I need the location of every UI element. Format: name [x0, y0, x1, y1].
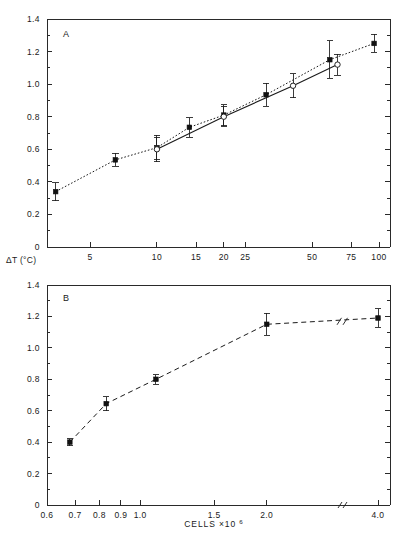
panel-b-datapoint: [376, 316, 381, 321]
panel-a-datapoint: [372, 41, 377, 46]
panel-b-series-break-icon: [337, 318, 348, 325]
panel-b-yticklabel: 0.4: [27, 437, 40, 447]
panel-a-datapoint: [335, 62, 340, 67]
panel-b-xticklabel: 0.8: [93, 510, 106, 520]
panel-b-xticklabel: 4.0: [371, 510, 384, 520]
panel-a-datapoint: [113, 158, 118, 163]
panel-a-yticklabel: 0.4: [27, 177, 40, 187]
panel-a-datapoint: [53, 189, 58, 194]
panel-b-xticklabel: 0.6: [40, 510, 53, 520]
panel-b-xticklabel: 1.0: [134, 510, 147, 520]
panel-a-letter: A: [63, 29, 69, 39]
panel-b-yticklabel: 0: [35, 500, 40, 510]
y-axis-title: ΔT (°C): [6, 255, 36, 265]
panel-b-datapoint: [68, 440, 73, 445]
panel-a-yticklabel: 0.8: [27, 112, 40, 122]
panel-a-xticklabel: 15: [191, 252, 201, 262]
two-panel-line-chart: 00.20.40.60.81.01.21.400.20.40.60.81.01.…: [0, 0, 408, 535]
panel-b-yticklabel: 1.0: [27, 343, 40, 353]
panel-a-xticklabel: 75: [346, 252, 356, 262]
panel-a-yticklabel: 0.6: [27, 144, 40, 154]
panel-a-xticklabel: 25: [240, 252, 250, 262]
panel-a-line-filled-square-dotted: [56, 43, 374, 191]
panel-a-yticklabel: 1.0: [27, 79, 40, 89]
panel-a-datapoint: [264, 92, 269, 97]
panel-a-xticklabel: 100: [371, 252, 386, 262]
panel-b-datapoint: [264, 322, 269, 327]
panel-a-xticklabel: 20: [219, 252, 229, 262]
panel-a-xticklabel: 10: [152, 252, 162, 262]
panel-a-xticklabel: 50: [307, 252, 317, 262]
panel-b-yticklabel: 0.2: [27, 469, 40, 479]
panel-a-yticklabel: 1.4: [27, 14, 40, 24]
panel-a-datapoint: [187, 125, 192, 130]
x-axis-title-exponent: 6: [239, 518, 243, 525]
panel-b-letter: B: [63, 293, 69, 303]
x-axis-title: CELLS ×10 6: [184, 518, 243, 530]
panel-a-datapoint: [154, 147, 159, 152]
panel-b-xticklabel: 0.7: [69, 510, 82, 520]
panel-a-xticklabel: 5: [87, 252, 92, 262]
panel-a-yticklabel: 0.2: [27, 209, 40, 219]
panel-a-frame: [47, 19, 390, 247]
panel-b-yticklabel: 1.2: [27, 311, 40, 321]
panel-b-xticklabel: 0.9: [114, 510, 127, 520]
panel-a-datapoint: [327, 57, 332, 62]
panel-a-line-open-circle-solid: [157, 65, 338, 150]
panel-b-datapoint: [104, 401, 109, 406]
panel-a-datapoint: [290, 83, 295, 88]
figure-container: 00.20.40.60.81.01.21.400.20.40.60.81.01.…: [0, 0, 408, 535]
panel-a-yticklabel: 0: [35, 242, 40, 252]
panel-a-yticklabel: 1.2: [27, 47, 40, 57]
panel-b-frame: [47, 285, 390, 505]
panel-a-datapoint: [221, 114, 226, 119]
panel-b-yticklabel: 0.8: [27, 374, 40, 384]
panel-b-yticklabel: 1.4: [27, 280, 40, 290]
panel-b-xticklabel: 2.0: [260, 510, 273, 520]
panel-b-yticklabel: 0.6: [27, 406, 40, 416]
panel-b-line-filled-square-dashed: [70, 318, 378, 442]
panel-b-datapoint: [154, 377, 159, 382]
